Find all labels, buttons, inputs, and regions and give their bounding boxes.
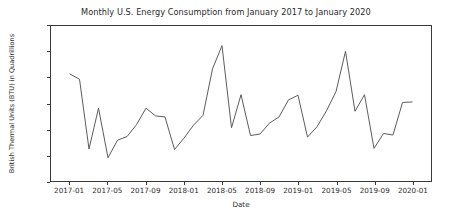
x-tick-label: 2019-01 xyxy=(268,186,328,195)
data-line-svg xyxy=(51,26,431,181)
chart-title: Monthly U.S. Energy Consumption from Jan… xyxy=(0,7,452,17)
x-tick-mark xyxy=(260,182,261,185)
x-tick-label: 2019-09 xyxy=(345,186,405,195)
x-tick-mark xyxy=(375,182,376,185)
x-tick-mark xyxy=(107,182,108,185)
x-tick-mark xyxy=(184,182,185,185)
x-axis-label: Date xyxy=(50,200,432,209)
x-tick-label: 2018-09 xyxy=(230,186,290,195)
x-tick-mark xyxy=(222,182,223,185)
plot-area xyxy=(50,25,432,182)
x-tick-label: 2018-05 xyxy=(192,186,252,195)
x-tick-label: 2018-01 xyxy=(154,186,214,195)
y-axis-label: British Thermal Units (BTU) in Quadrilli… xyxy=(8,25,19,182)
x-tick-mark xyxy=(337,182,338,185)
x-tick-mark xyxy=(69,182,70,185)
y-tick-mark xyxy=(47,182,50,183)
x-tick-label: 2020-01 xyxy=(383,186,443,195)
x-tick-mark xyxy=(146,182,147,185)
x-tick-mark xyxy=(298,182,299,185)
x-tick-label: 2017-09 xyxy=(116,186,176,195)
x-tick-label: 2019-05 xyxy=(307,186,367,195)
chart-figure: Monthly U.S. Energy Consumption from Jan… xyxy=(0,0,452,218)
x-tick-mark xyxy=(413,182,414,185)
data-line xyxy=(70,46,412,158)
x-tick-label: 2017-05 xyxy=(77,186,137,195)
x-tick-label: 2017-01 xyxy=(39,186,99,195)
